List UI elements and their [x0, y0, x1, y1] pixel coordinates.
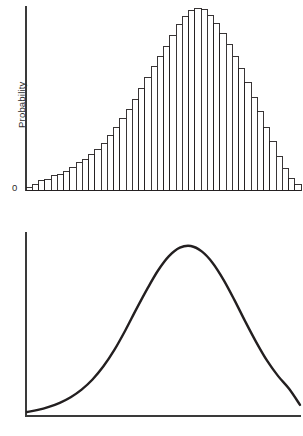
- figure-container: Probability 0 Probability 0: [0, 0, 303, 436]
- histogram-plot: [0, 0, 303, 218]
- probability-density-curve: [27, 246, 300, 412]
- histogram-bar: [76, 163, 82, 190]
- histogram-bar: [289, 178, 295, 190]
- histogram-bar: [82, 160, 88, 190]
- histogram-bar: [245, 83, 251, 190]
- histogram-bar: [145, 77, 151, 190]
- histogram-bars: [26, 8, 301, 190]
- histogram-bar: [26, 188, 32, 190]
- histogram-bar: [270, 142, 276, 190]
- histogram-bar: [214, 23, 220, 190]
- histogram-bar: [182, 16, 188, 190]
- histogram-bar: [51, 176, 57, 190]
- histogram-bar: [195, 8, 201, 190]
- histogram-bar: [239, 69, 245, 190]
- histogram-bar: [32, 185, 38, 190]
- histogram-bar: [157, 56, 163, 190]
- histogram-bar: [201, 10, 207, 190]
- histogram-bar: [220, 33, 226, 190]
- histogram-bar: [189, 11, 195, 190]
- histogram-bar: [126, 109, 132, 190]
- histogram-panel: Probability 0: [0, 0, 303, 218]
- histogram-bar: [39, 181, 45, 190]
- histogram-bar: [101, 143, 107, 190]
- histogram-bar: [232, 56, 238, 190]
- histogram-bar: [176, 24, 182, 190]
- histogram-bar: [45, 179, 51, 190]
- histogram-bar: [64, 172, 70, 190]
- histogram-bar: [95, 149, 101, 190]
- histogram-bar: [226, 44, 232, 190]
- histogram-bar: [151, 66, 157, 190]
- histogram-bar: [257, 112, 263, 190]
- histogram-bar: [264, 127, 270, 190]
- histogram-bar: [251, 97, 257, 190]
- histogram-bar: [89, 155, 95, 190]
- histogram-bar: [132, 99, 138, 190]
- histogram-bar: [276, 156, 282, 190]
- normal-curve-plot: [0, 218, 303, 436]
- histogram-bar: [164, 46, 170, 190]
- curve-panel: Probability 0: [0, 218, 303, 436]
- histogram-bar: [282, 168, 288, 190]
- histogram-bar: [139, 88, 145, 190]
- histogram-bar: [207, 15, 213, 190]
- histogram-bar: [114, 127, 120, 190]
- histogram-bar: [295, 185, 301, 190]
- histogram-bar: [57, 175, 63, 190]
- histogram-origin-label: 0: [12, 182, 17, 193]
- histogram-bar: [107, 135, 113, 190]
- histogram-bar: [70, 167, 76, 190]
- histogram-bar: [170, 35, 176, 190]
- histogram-bar: [120, 118, 126, 190]
- histogram-y-axis-label: Probability: [16, 81, 27, 128]
